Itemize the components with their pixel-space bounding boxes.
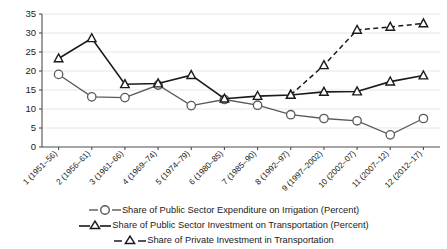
y-axis-tick-label: 5 [31, 122, 36, 133]
y-axis-tick-label: 30 [25, 27, 36, 38]
y-axis-tick-label: 25 [25, 46, 36, 57]
data-point-marker-circle [353, 117, 361, 125]
legend-label-irrigation: Share of Public Sector Expenditure on Ir… [122, 203, 359, 217]
legend-item-public-transport[interactable]: Share of Public Sector Investment on Tra… [78, 218, 368, 232]
legend-item-private-transport[interactable]: Share of Private Investment in Transport… [113, 233, 334, 247]
x-axis-tick-label-group: 2 (1956–61) [55, 149, 93, 187]
x-axis-tick-label: 5 (1974–79) [154, 149, 192, 187]
x-axis-tick-label: 2 (1956–61) [55, 149, 93, 187]
data-point-marker-triangle [187, 71, 196, 79]
y-axis-tick-label: 10 [25, 103, 36, 114]
data-point-marker-triangle [54, 54, 63, 62]
x-axis-tick-label-group: 6 (1980–85) [187, 149, 225, 187]
legend-label-private-transport: Share of Private Investment in Transport… [147, 233, 334, 247]
data-point-marker-circle [121, 93, 129, 101]
series-line-2 [291, 24, 424, 95]
x-axis-tick-label: 6 (1980–85) [187, 149, 225, 187]
data-point-marker-circle [187, 101, 195, 109]
data-point-marker-triangle [320, 61, 329, 69]
chart-legend: Share of Public Sector Expenditure on Ir… [0, 203, 447, 247]
x-axis-tick-label-group: 5 (1974–79) [154, 149, 192, 187]
x-axis-tick-label-group: 3 (1961–66) [88, 149, 126, 187]
chart-container: 051015202530351 (1951–56)2 (1956–61)3 (1… [0, 0, 447, 249]
data-point-marker-circle [88, 93, 96, 101]
x-axis-tick-label: 1 (1951–56) [21, 149, 59, 187]
data-point-marker-triangle [419, 71, 428, 79]
x-axis-tick-label: 7 (1985–90) [220, 149, 258, 187]
data-point-marker-triangle [87, 34, 96, 42]
data-point-marker-circle [386, 131, 394, 139]
data-point-marker-circle [287, 111, 295, 119]
y-axis-tick-label: 0 [31, 141, 36, 152]
legend-label-public-transport: Share of Public Sector Investment on Tra… [112, 218, 368, 232]
series-line-0 [59, 74, 424, 134]
legend-marker-triangle-dashed-icon [113, 233, 147, 247]
data-point-marker-circle [253, 101, 261, 109]
data-point-marker-circle [419, 114, 427, 122]
data-point-marker-triangle [419, 19, 428, 27]
x-axis-tick-label: 4 (1969–74) [121, 149, 159, 187]
y-axis-tick-label: 15 [25, 84, 36, 95]
data-point-marker-circle [320, 114, 328, 122]
legend-marker-circle-icon [88, 203, 122, 217]
x-axis-tick-label-group: 1 (1951–56) [21, 149, 59, 187]
legend-item-irrigation[interactable]: Share of Public Sector Expenditure on Ir… [88, 203, 359, 217]
x-axis-tick-label-group: 7 (1985–90) [220, 149, 258, 187]
legend-marker-triangle-solid-icon [78, 218, 112, 232]
data-point-marker-circle [54, 70, 62, 78]
x-axis-tick-label: 3 (1961–66) [88, 149, 126, 187]
y-axis-tick-label: 20 [25, 65, 36, 76]
x-axis-tick-label-group: 4 (1969–74) [121, 149, 159, 187]
y-axis-tick-label: 35 [25, 8, 36, 19]
